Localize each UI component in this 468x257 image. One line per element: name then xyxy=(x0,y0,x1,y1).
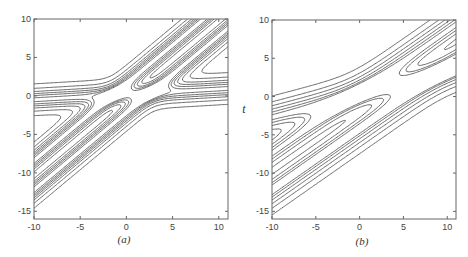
y-tick-label: 5 xyxy=(264,53,269,63)
x-tick-label: -5 xyxy=(312,222,320,232)
y-tick-label: 0 xyxy=(264,92,269,102)
y-tick-label: 10 xyxy=(259,15,269,25)
panel-b: -10-505101050-5-10-15(b)t xyxy=(0,0,468,257)
contour-plot-b: -10-505101050-5-10-15(b)t xyxy=(0,0,468,257)
contour-lines xyxy=(272,20,456,215)
x-tick-label: 0 xyxy=(357,222,362,232)
y-tick-label: -10 xyxy=(256,168,269,178)
panel-caption: (b) xyxy=(356,235,369,248)
x-tick-label: 10 xyxy=(442,222,452,232)
x-tick-label: 5 xyxy=(401,222,406,232)
x-tick-label: -10 xyxy=(265,222,278,232)
y-axis-label: t xyxy=(242,102,246,116)
y-tick-label: -15 xyxy=(256,206,269,216)
y-tick-label: -5 xyxy=(261,130,269,140)
